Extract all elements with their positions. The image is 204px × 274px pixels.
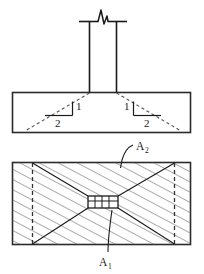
slope-rise-label-right: 1: [124, 100, 130, 112]
elevation-view: 1 2 1 2: [13, 10, 191, 133]
slope-run-label-right: 2: [144, 117, 150, 129]
column-elevation: [90, 22, 117, 93]
slope-rise-label-left: 1: [76, 100, 82, 112]
area-label-a1-text: A: [99, 256, 108, 268]
figure-container: 1 2 1 2: [0, 0, 204, 274]
area-label-a1: A 1: [99, 256, 112, 271]
area-label-a2: A 2: [136, 140, 149, 155]
column-footprint-plan: [88, 196, 118, 208]
area-label-a2-text: A: [136, 140, 145, 152]
plan-view: A 2 A 1: [13, 140, 191, 271]
structural-detail-drawing: 1 2 1 2: [0, 0, 204, 274]
slope-run-label-left: 2: [55, 117, 61, 129]
area-label-a1-subscript: 1: [108, 262, 112, 271]
column-break-symbol: [79, 10, 127, 24]
area-label-a2-subscript: 2: [145, 146, 149, 155]
footing-elevation: [13, 93, 191, 133]
